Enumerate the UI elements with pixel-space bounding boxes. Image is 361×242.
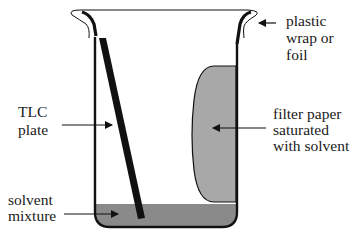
label-plastic-wrap: plastic wrap or foil bbox=[286, 12, 338, 63]
label-tlc-plate: TLC plate bbox=[18, 103, 51, 138]
solvent-layer bbox=[96, 204, 236, 226]
tlc-plate bbox=[99, 38, 145, 219]
label-filter-paper: filter paper saturated with solvent bbox=[273, 105, 350, 154]
filter-paper bbox=[192, 66, 236, 202]
tlc-chamber-diagram: TLC plate solvent mixture plastic wrap o… bbox=[0, 0, 361, 242]
label-solvent-mixture: solvent mixture bbox=[8, 191, 57, 224]
